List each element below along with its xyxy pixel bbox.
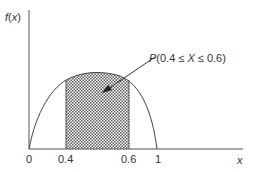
tick-label-0-4: 0.4 (58, 153, 73, 165)
tick-label-0: 0 (26, 153, 32, 165)
x-axis-label: x (236, 154, 243, 166)
probability-annotation: P(0.4 ≤ X ≤ 0.6) (149, 52, 226, 64)
tick-label-1: 1 (155, 153, 161, 165)
tick-label-0-6: 0.6 (121, 153, 136, 165)
shaded-probability-region (66, 60, 129, 149)
pdf-chart: f(x) x 0 0.4 0.6 1 P(0.4 ≤ X ≤ 0.6) (0, 0, 253, 172)
y-axis-label: f(x) (5, 11, 21, 23)
